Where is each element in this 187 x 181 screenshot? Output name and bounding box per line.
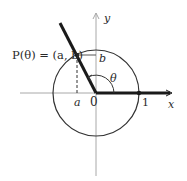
y-axis-label: y: [103, 12, 111, 25]
b-label: b: [99, 52, 106, 65]
theta-label: θ: [110, 72, 117, 85]
point-label: P(θ) = (a, b): [12, 48, 83, 62]
origin-label: 0: [90, 95, 98, 109]
a-label: a: [74, 96, 81, 109]
point-one: [137, 91, 141, 95]
one-label: 1: [142, 96, 149, 109]
x-axis-label: x: [168, 98, 175, 111]
unit-circle-diagram: P(θ) = (a, b) b θ a 0 1 x y: [0, 0, 187, 181]
